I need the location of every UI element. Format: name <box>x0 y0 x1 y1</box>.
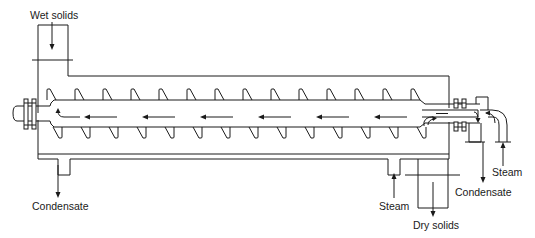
flight-bottom <box>165 127 174 138</box>
screw-flights-bottom <box>53 127 426 138</box>
flight-top <box>47 89 56 100</box>
flight-top <box>187 89 196 100</box>
flight-top <box>383 89 392 100</box>
flight-bottom <box>109 127 118 138</box>
label-steam-bottom: Steam <box>379 200 410 212</box>
arrow-left-icon <box>200 115 206 120</box>
flight-top <box>243 89 252 100</box>
arrow-left-icon <box>316 115 322 120</box>
flight-bottom <box>81 127 90 138</box>
flight-top <box>131 89 140 100</box>
condensate-left-arrow <box>56 165 61 198</box>
wet-solids-arrow <box>50 22 55 50</box>
flight-bottom <box>277 127 286 138</box>
inner-steam-tube <box>422 110 478 126</box>
flight-top <box>271 89 280 100</box>
flight-bottom <box>53 127 62 138</box>
flight-bottom <box>193 127 202 138</box>
flight-bottom <box>305 127 314 138</box>
arrow-left-icon <box>84 115 90 120</box>
steam-right-arrow <box>501 142 506 166</box>
screw-shaft <box>13 99 480 129</box>
flight-bottom <box>389 127 398 138</box>
label-wet-solids: Wet solids <box>30 9 78 21</box>
flight-top <box>299 89 308 100</box>
return-arrow-left <box>58 111 80 117</box>
flight-bottom <box>249 127 258 138</box>
arrow-left-icon <box>374 115 380 120</box>
flight-top <box>215 89 224 100</box>
flight-bottom <box>333 127 342 138</box>
flight-top <box>159 89 168 100</box>
arrow-left-icon <box>258 115 264 120</box>
dry-solids-arrow <box>431 182 436 217</box>
flight-bottom <box>221 127 230 138</box>
flight-top <box>75 89 84 100</box>
flight-top <box>411 89 420 100</box>
flight-bottom <box>417 127 426 138</box>
label-steam-right: Steam <box>492 166 523 178</box>
dryer-diagram: Wet solids Condensate Steam Dry solids C… <box>0 0 535 238</box>
flight-bottom <box>137 127 146 138</box>
label-condensate-left: Condensate <box>32 200 89 212</box>
flight-top <box>103 89 112 100</box>
flight-bottom <box>361 127 370 138</box>
screw-flights-top <box>47 89 420 100</box>
flight-top <box>355 89 364 100</box>
steam-bottom-arrow <box>392 173 397 198</box>
condensate-right-arrow <box>481 142 486 183</box>
bearing-seal-left <box>24 99 36 129</box>
arrow-left-icon <box>142 115 148 120</box>
flow-arrows <box>84 114 448 120</box>
label-dry-solids: Dry solids <box>413 219 459 231</box>
label-condensate-right: Condensate <box>455 186 512 198</box>
flight-top <box>327 89 336 100</box>
